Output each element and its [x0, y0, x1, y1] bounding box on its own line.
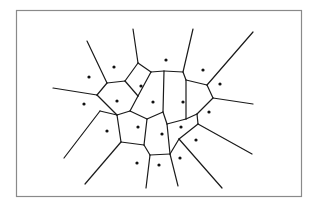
voronoi-site [218, 82, 221, 85]
voronoi-site [207, 110, 210, 113]
voronoi-site [194, 138, 197, 141]
voronoi-site [135, 161, 138, 164]
voronoi-site [151, 100, 154, 103]
voronoi-site [181, 100, 184, 103]
voronoi-site [160, 132, 163, 135]
voronoi-site [157, 163, 160, 166]
voronoi-site [112, 65, 115, 68]
diagram-frame [17, 11, 302, 197]
voronoi-site [139, 84, 142, 87]
voronoi-site [201, 68, 204, 71]
voronoi-site [82, 102, 85, 105]
voronoi-site [115, 99, 118, 102]
voronoi-site [164, 58, 167, 61]
voronoi-site [105, 129, 108, 132]
voronoi-site [178, 156, 181, 159]
voronoi-site [136, 125, 139, 128]
voronoi-site [179, 125, 182, 128]
voronoi-diagram [0, 0, 317, 212]
voronoi-site [87, 75, 90, 78]
